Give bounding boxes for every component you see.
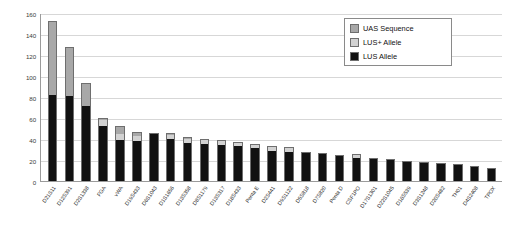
bar-segment-lus-allele	[167, 139, 175, 181]
bar-segment-lus-allele	[66, 96, 74, 181]
y-axis-tick-label: 160	[0, 11, 36, 18]
bar-segment-lus-allele	[234, 146, 242, 181]
x-axis-tick-label: vWA	[113, 185, 124, 197]
bar-segment-lus-allele	[285, 152, 293, 181]
chart-legend: UAS Sequence LUS+ Allele LUS Allele	[344, 18, 452, 66]
x-label-column: FGA	[94, 183, 111, 238]
legend-item-lus-plus-allele: LUS+ Allele	[350, 37, 446, 47]
y-axis-tick-label: 40	[0, 137, 36, 144]
bar-segment-lus-allele	[454, 165, 462, 181]
bar-segment-lus-allele	[302, 153, 310, 181]
stacked-bar	[217, 140, 227, 181]
x-label-column: D16S539	[398, 183, 415, 238]
bar-segment-lus-allele	[488, 169, 496, 181]
stacked-bar	[48, 21, 58, 181]
bar-column	[128, 14, 145, 181]
stacked-bar	[318, 153, 328, 181]
bar-segment-lus-allele	[268, 151, 276, 181]
bar-segment-lus-allele	[251, 148, 259, 181]
legend-label: UAS Sequence	[363, 24, 414, 33]
x-label-column: CSF1PO	[348, 183, 365, 238]
bar-column	[44, 14, 61, 181]
bar-segment-lus-allele	[437, 164, 445, 181]
bar-segment-lus-allele	[218, 145, 226, 181]
stacked-bar	[352, 154, 362, 181]
legend-swatch-icon	[350, 52, 359, 61]
x-label-column: D1S1656	[161, 183, 178, 238]
y-axis-tick-label: 60	[0, 116, 36, 123]
x-label-column: D17S1301	[365, 183, 382, 238]
bar-segment-lus-allele	[116, 140, 124, 181]
bar-column	[179, 14, 196, 181]
bar-segment-uas-sequence	[82, 84, 90, 106]
stacked-bar	[386, 159, 396, 181]
y-axis-tick-label: 20	[0, 158, 36, 165]
stacked-bar	[369, 158, 379, 181]
x-axis-tick-label: D21S11	[41, 185, 57, 204]
x-axis-tick-label: D7S820	[311, 185, 327, 204]
bar-segment-uas-sequence	[49, 22, 57, 94]
allele-count-bar-chart: Allele Count 020406080100120140160 D21S1…	[0, 0, 514, 238]
y-axis-tick-label: 100	[0, 74, 36, 81]
bar-segment-lus-allele	[403, 162, 411, 181]
stacked-bar	[301, 152, 311, 181]
bar-column	[61, 14, 78, 181]
bar-column	[483, 14, 500, 181]
x-label-column: D18S433	[229, 183, 246, 238]
stacked-bar	[132, 132, 142, 181]
stacked-bar	[402, 161, 412, 181]
bar-column	[466, 14, 483, 181]
x-label-column: D7S820	[314, 183, 331, 238]
bar-segment-lus-allele	[471, 167, 479, 181]
x-label-column: D19S433	[128, 183, 145, 238]
bar-column	[162, 14, 179, 181]
legend-item-lus-allele: LUS Allele	[350, 51, 446, 61]
bar-column	[196, 14, 213, 181]
x-axis-tick-label: TPOX	[483, 185, 496, 200]
x-label-column: Penta E	[246, 183, 263, 238]
bar-segment-lus-allele	[150, 134, 158, 181]
stacked-bar	[335, 155, 345, 181]
stacked-bar	[81, 83, 91, 181]
x-label-column: D13S358	[178, 183, 195, 238]
x-label-column: D4S2408	[466, 183, 483, 238]
x-axis-tick-label: FGA	[96, 185, 107, 197]
legend-swatch-icon	[350, 24, 359, 33]
bar-column	[297, 14, 314, 181]
bar-segment-lus-allele	[319, 154, 327, 181]
y-axis-tick-label: 120	[0, 53, 36, 60]
x-label-column: D9S1122	[280, 183, 297, 238]
stacked-bar	[65, 47, 75, 181]
bar-segment-lus-allele	[99, 126, 107, 181]
legend-label: LUS Allele	[363, 52, 397, 61]
bar-column	[78, 14, 95, 181]
x-label-column: TH01	[449, 183, 466, 238]
stacked-bar	[419, 162, 429, 181]
stacked-bar	[115, 126, 125, 181]
stacked-bar	[183, 137, 193, 181]
x-label-column: D22S1045	[381, 183, 398, 238]
bar-segment-lus-allele	[387, 160, 395, 181]
bar-segment-lus-allele	[420, 163, 428, 181]
bar-column	[213, 14, 230, 181]
x-label-column: D12S391	[60, 183, 77, 238]
bar-segment-lus-allele	[184, 143, 192, 181]
x-label-column: D13S317	[212, 183, 229, 238]
stacked-bar	[250, 144, 260, 181]
bar-column	[264, 14, 281, 181]
bar-column	[280, 14, 297, 181]
stacked-bar	[233, 142, 243, 181]
x-label-column: D8S1179	[195, 183, 212, 238]
x-axis-tick-label: Penta D	[328, 185, 344, 204]
bar-segment-lus-allele	[336, 156, 344, 181]
stacked-bar	[166, 133, 176, 181]
x-label-column: D6S1043	[145, 183, 162, 238]
legend-label: LUS+ Allele	[363, 38, 401, 47]
x-axis-tick-label: Penta E	[244, 185, 260, 204]
x-axis-tick-labels: D21S11D12S391D2S1338FGAvWAD19S433D6S1043…	[40, 183, 502, 238]
bar-segment-lus-allele	[353, 158, 361, 181]
x-label-column: D20S482	[432, 183, 449, 238]
stacked-bar	[284, 147, 294, 181]
stacked-bar	[200, 139, 210, 181]
bar-segment-lus-allele	[82, 106, 90, 181]
